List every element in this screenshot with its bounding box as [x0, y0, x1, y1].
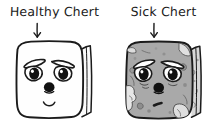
panel-healthy-chert: Healthy Chert — [0, 0, 109, 131]
label-sick-chert: Sick Chert — [109, 4, 218, 19]
down-arrow-icon — [109, 21, 218, 41]
illustration-canvas: Healthy Chert — [0, 0, 218, 131]
left-eye-icon — [134, 67, 151, 81]
chert-cube-healthy-container — [0, 40, 109, 131]
cube-front-face — [16, 41, 83, 118]
chert-cube-sick-icon — [109, 40, 218, 131]
left-eye-icon — [25, 66, 42, 80]
panel-sick-chert: Sick Chert — [109, 0, 218, 131]
down-arrow-icon — [0, 21, 109, 41]
chert-cube-sick-container — [109, 40, 218, 131]
right-eye-icon — [54, 66, 72, 81]
chert-cube-healthy-icon — [0, 40, 109, 131]
label-healthy-chert: Healthy Chert — [0, 4, 109, 19]
right-eye-icon — [164, 67, 182, 82]
arrow-sick-container — [109, 21, 218, 41]
arrow-healthy-container — [0, 21, 109, 41]
